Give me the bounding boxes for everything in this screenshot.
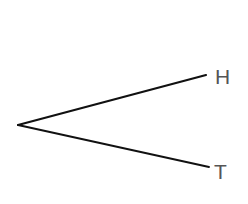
tree-diagram: H T: [0, 0, 248, 204]
tree-branches: [0, 0, 248, 204]
outcome-label-h: H: [215, 66, 230, 87]
branch-h-line: [18, 75, 206, 125]
branch-t-line: [18, 125, 209, 167]
outcome-label-t: T: [214, 161, 227, 182]
